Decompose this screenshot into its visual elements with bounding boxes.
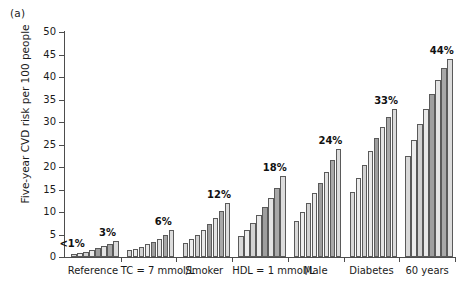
category-label: Reference — [65, 265, 121, 276]
bar — [435, 80, 440, 257]
bar — [238, 236, 243, 257]
y-tick-mark — [59, 212, 64, 213]
bar — [447, 59, 452, 257]
bar — [405, 156, 410, 257]
bar — [213, 218, 218, 257]
category-label: HDL = 1 mmol/L — [232, 265, 288, 276]
bar — [139, 247, 144, 257]
category-tick — [121, 257, 122, 262]
bar — [312, 193, 317, 257]
bar — [169, 230, 174, 257]
plot-area: 3%<1%6%12%18%24%33%44% — [65, 32, 455, 257]
bar — [183, 243, 188, 257]
bar — [250, 223, 255, 257]
category-tick — [455, 257, 456, 262]
bar — [189, 239, 194, 257]
y-tick-mark — [59, 100, 64, 101]
bar — [244, 230, 249, 257]
category-label: 60 years — [399, 265, 455, 276]
bar — [201, 230, 206, 257]
category-tick — [344, 257, 345, 262]
bar-value-label: 18% — [258, 162, 292, 173]
bar — [336, 149, 341, 257]
bar — [225, 203, 230, 257]
bar-value-label: 12% — [202, 189, 236, 200]
bar — [83, 252, 88, 257]
bar — [207, 224, 212, 257]
bar — [133, 249, 138, 257]
bar — [423, 109, 428, 258]
bar — [95, 248, 100, 257]
bar — [163, 235, 168, 257]
bar — [368, 151, 373, 257]
category-label: Diabetes — [344, 265, 400, 276]
bar — [350, 192, 355, 257]
y-tick-mark — [59, 77, 64, 78]
bar — [441, 68, 446, 257]
category-label: Smoker — [176, 265, 232, 276]
bar — [256, 215, 261, 257]
bar — [294, 221, 299, 257]
bar-group — [405, 32, 452, 257]
bar — [113, 241, 118, 257]
bar — [127, 250, 132, 257]
bar — [151, 242, 156, 257]
category-label: Male — [288, 265, 344, 276]
bar — [330, 160, 335, 257]
bar — [71, 254, 76, 257]
bar — [77, 253, 82, 257]
y-tick-mark — [59, 167, 64, 168]
bar-value-label: 6% — [146, 216, 180, 227]
y-axis-title: Five-year CVD risk per 100 people — [19, 0, 31, 229]
bar — [268, 198, 273, 257]
category-tick — [176, 257, 177, 262]
bar — [219, 211, 224, 257]
category-tick — [232, 257, 233, 262]
x-axis-line — [64, 257, 455, 258]
category-label: TC = 7 mmol/L — [121, 265, 177, 276]
bar — [101, 246, 106, 257]
category-tick — [399, 257, 400, 262]
y-tick-mark — [59, 190, 64, 191]
bar — [280, 176, 285, 257]
bar — [195, 235, 200, 257]
bar — [417, 124, 422, 257]
category-tick — [288, 257, 289, 262]
bar-value-label: 44% — [425, 45, 459, 56]
bar — [429, 94, 434, 257]
y-tick-mark — [59, 122, 64, 123]
bar — [145, 244, 150, 257]
bar — [411, 140, 416, 257]
figure-panel: (a) 05101520253035404550 Five-year CVD r… — [0, 0, 463, 291]
bar — [157, 239, 162, 257]
bar — [324, 172, 329, 258]
bar-value-label: 33% — [369, 95, 403, 106]
bar — [274, 188, 279, 257]
bar — [362, 165, 367, 257]
bar-group — [350, 32, 397, 257]
bar — [380, 127, 385, 258]
y-tick-label: 5 — [16, 230, 56, 240]
bar — [107, 244, 112, 258]
bar-group — [183, 32, 230, 257]
y-tick-mark — [59, 235, 64, 236]
y-tick-mark — [59, 145, 64, 146]
bar — [89, 250, 94, 257]
bar — [356, 178, 361, 257]
bar — [374, 138, 379, 257]
bar-value-label: 24% — [313, 135, 347, 146]
bar — [300, 212, 305, 257]
bar — [386, 117, 391, 257]
y-tick-label: 0 — [16, 252, 56, 262]
bar — [318, 183, 323, 257]
bar-group — [238, 32, 285, 257]
y-tick-mark — [59, 55, 64, 56]
y-tick-mark — [59, 32, 64, 33]
bar — [392, 109, 397, 258]
bar-value-label: <1% — [57, 238, 87, 249]
y-axis-tick-labels: 05101520253035404550 — [8, 0, 56, 291]
bar — [306, 203, 311, 257]
bar-value-label: 3% — [91, 227, 125, 238]
y-tick-mark — [59, 257, 64, 258]
bar — [262, 207, 267, 257]
